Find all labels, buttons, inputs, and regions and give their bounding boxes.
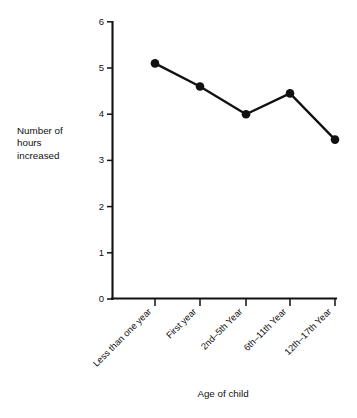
x-tick-label: 2nd–5th Year — [199, 306, 244, 351]
y-tick-label: 5 — [99, 62, 104, 73]
x-axis-title: Age of child — [197, 388, 248, 399]
data-point-marker — [196, 82, 205, 91]
x-tick-label: Less than one year — [91, 306, 153, 368]
data-point-marker — [331, 135, 340, 144]
y-tick-label: 3 — [99, 154, 104, 165]
line-chart-plot: 0123456 Less than one yearFirst year2nd–… — [0, 0, 357, 418]
x-tick-label: 12th–17th Year — [283, 306, 334, 357]
series-line — [155, 63, 335, 139]
y-tick-label: 2 — [99, 201, 104, 212]
data-point-marker — [286, 89, 295, 98]
y-tick-label: 6 — [99, 16, 104, 27]
x-axis-ticks — [155, 299, 335, 306]
y-tick-label: 1 — [99, 247, 104, 258]
data-series-group — [151, 59, 340, 144]
x-tick-label: 6th–11th Year — [242, 306, 289, 353]
data-point-marker — [151, 59, 160, 68]
axes-group — [112, 22, 336, 299]
y-tick-label: 0 — [99, 293, 104, 304]
y-axis-ticks: 0123456 — [99, 16, 112, 304]
chart-figure: Number ofhoursincreased 0123456 Less tha… — [0, 0, 357, 418]
y-tick-label: 4 — [99, 108, 104, 119]
data-point-marker — [242, 110, 251, 119]
x-axis-tick-labels: Less than one yearFirst year2nd–5th Year… — [91, 306, 333, 368]
x-tick-label: First year — [164, 306, 198, 340]
